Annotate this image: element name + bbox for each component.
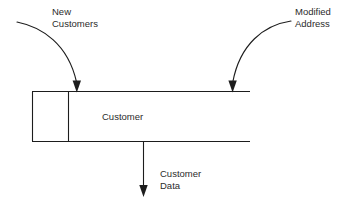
modified-address-arrow-curve (233, 21, 291, 82)
new-customers-arrow-curve (17, 22, 77, 82)
data-store-label: Customer (102, 111, 143, 122)
flow-customer-data[interactable]: Customer Data (139, 142, 201, 198)
data-flow-diagram: Customer New Customers Modified Address … (0, 0, 348, 210)
customer-data-arrowhead (139, 185, 147, 197)
new-customers-label-line1: New (52, 6, 71, 17)
modified-address-label-line2: Address (295, 18, 330, 29)
new-customers-arrowhead (73, 81, 81, 93)
new-customers-label-line2: Customers (52, 18, 98, 29)
customer-data-label-line1: Customer (160, 168, 201, 179)
modified-address-label-line1: Modified (295, 6, 331, 17)
flow-new-customers[interactable]: New Customers (17, 6, 98, 93)
modified-address-arrowhead (228, 81, 236, 93)
data-store-customer[interactable]: Customer (32, 92, 250, 142)
diagram-canvas: Customer New Customers Modified Address … (0, 0, 348, 210)
flow-modified-address[interactable]: Modified Address (228, 6, 331, 93)
customer-data-label-line2: Data (160, 180, 181, 191)
